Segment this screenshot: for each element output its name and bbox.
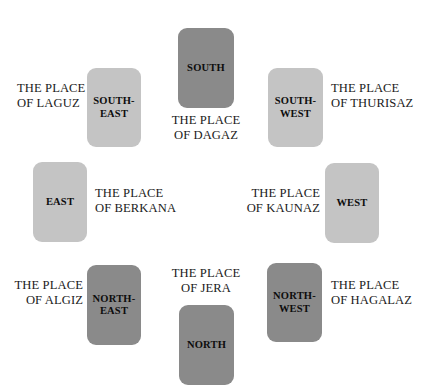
place-label-laguz: THE PLACE OF LAGUZ: [17, 81, 87, 110]
direction-card-east[interactable]: EAST: [33, 162, 87, 242]
direction-card-north-east[interactable]: NORTH- EAST: [87, 265, 141, 345]
place-label-thurisaz: THE PLACE OF THURISAZ: [331, 81, 423, 110]
place-label-jera: THE PLACE OF JERA: [151, 266, 261, 295]
direction-card-south-west-label: SOUTH- WEST: [275, 95, 316, 120]
place-label-hagalaz: THE PLACE OF HAGALAZ: [331, 278, 423, 307]
place-label-kaunaz: THE PLACE OF KAUNAZ: [232, 186, 320, 215]
direction-card-west[interactable]: WEST: [325, 163, 379, 243]
direction-card-north-west-label: NORTH- WEST: [273, 290, 316, 315]
direction-card-north-label: NORTH: [187, 339, 226, 352]
direction-card-north[interactable]: NORTH: [179, 305, 234, 385]
direction-card-south-east[interactable]: SOUTH- EAST: [87, 68, 141, 147]
runic-direction-diagram: SOUTH THE PLACE OF DAGAZ SOUTH- EAST THE…: [0, 0, 425, 392]
place-label-algiz: THE PLACE OF ALGIZ: [13, 278, 83, 307]
direction-card-south-east-label: SOUTH- EAST: [93, 95, 134, 120]
direction-card-north-east-label: NORTH- EAST: [93, 293, 136, 318]
direction-card-north-west[interactable]: NORTH- WEST: [267, 263, 322, 342]
direction-card-south[interactable]: SOUTH: [178, 28, 234, 108]
direction-card-east-label: EAST: [46, 196, 74, 209]
direction-card-south-west[interactable]: SOUTH- WEST: [268, 68, 323, 147]
place-label-dagaz: THE PLACE OF DAGAZ: [151, 113, 261, 142]
direction-card-west-label: WEST: [336, 197, 367, 210]
direction-card-south-label: SOUTH: [187, 62, 225, 75]
place-label-berkana: THE PLACE OF BERKANA: [95, 186, 185, 215]
